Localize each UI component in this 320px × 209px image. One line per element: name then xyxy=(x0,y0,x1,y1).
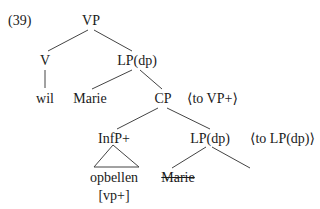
feature-vp-plus: [vp+] xyxy=(98,188,129,204)
node-vp: VP xyxy=(82,13,100,29)
word-marie-struck: Marie xyxy=(161,170,194,186)
annotation-to-lp: ⟨to LP(dp)⟩ xyxy=(250,131,315,147)
node-cp: CP xyxy=(154,91,171,107)
example-number: (39) xyxy=(8,13,31,29)
node-infp: InfP+ xyxy=(98,131,130,147)
word-opbellen: opbellen xyxy=(90,170,138,186)
branch-lp-cp xyxy=(140,70,162,89)
word-marie: Marie xyxy=(73,91,106,107)
branch-vp-v xyxy=(48,30,88,51)
branch-vp-lp xyxy=(94,30,132,51)
branch-lp-marie xyxy=(92,70,132,89)
node-v: V xyxy=(40,53,50,69)
branch-cp-infp xyxy=(117,108,158,129)
triangle-infp xyxy=(94,145,139,167)
node-lp-lower: LP(dp) xyxy=(190,131,230,147)
annotation-to-vp: ⟨to VP+⟩ xyxy=(187,91,238,107)
word-wil: wil xyxy=(36,91,54,107)
branch-lp-empty xyxy=(212,147,250,168)
branch-lp-marie-struck xyxy=(172,147,206,168)
node-lp-top: LP(dp) xyxy=(117,53,157,69)
branch-cp-lp xyxy=(167,108,210,129)
